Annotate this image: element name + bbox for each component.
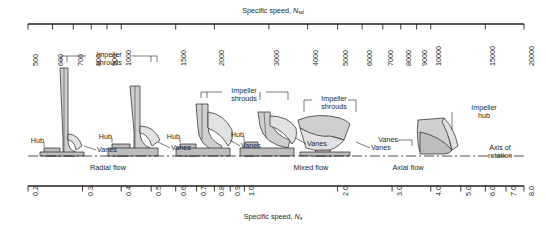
axis-tick-label: 2.0 — [341, 186, 350, 196]
axis-tick-label: 0.6 — [179, 186, 188, 196]
axis-tick-label: 0.9 — [233, 186, 242, 196]
bottom-axis-title-subscript: s — [300, 215, 303, 221]
axis-tick-label: 8.0 — [527, 186, 536, 196]
bottom-axis-title-prefix: Specific speed, — [244, 212, 295, 221]
axis-tick-label: 0.7 — [199, 186, 208, 196]
axis-tick-label: 4.0 — [434, 186, 443, 196]
axis-tick-label: 3.0 — [395, 186, 404, 196]
axis-tick-label: 0.8 — [217, 186, 226, 196]
axis-tick-label: 1.0 — [247, 186, 256, 196]
axis-tick-label: 0.3 — [86, 186, 95, 196]
axis-tick-label: 0.4 — [124, 186, 133, 196]
axis-tick-label: 7.0 — [509, 186, 518, 196]
bottom-axis-title: Specific speed, Ns — [0, 212, 546, 221]
axis-tick-label: 5.0 — [464, 186, 473, 196]
axis-tick-label: 0.5 — [154, 186, 163, 196]
axis-tick-label: 0.2 — [31, 186, 40, 196]
axis-tick-label: 6.0 — [488, 186, 497, 196]
figure-canvas: Specific speed, Nsd 50060070080090010001… — [0, 0, 546, 225]
